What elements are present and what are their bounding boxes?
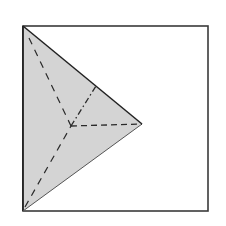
shaded-face [23,26,142,211]
pyramid-diagram [0,0,226,226]
